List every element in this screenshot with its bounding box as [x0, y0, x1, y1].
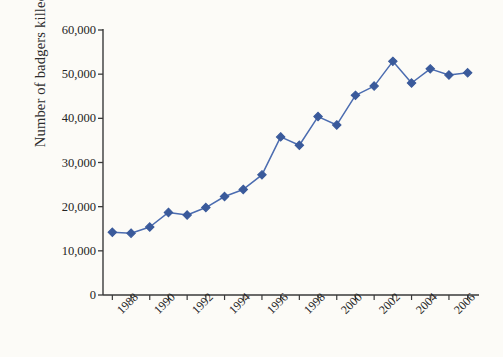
data-point-marker	[295, 141, 303, 149]
chart-container: Number of badgers killed 60,000 50,000 4…	[0, 0, 503, 357]
data-series-line	[112, 61, 467, 233]
data-point-marker	[220, 192, 228, 200]
data-point-marker	[183, 211, 191, 219]
data-point-marker	[108, 228, 116, 236]
data-point-marker	[202, 203, 210, 211]
data-point-marker	[463, 69, 471, 77]
data-point-marker	[314, 112, 322, 120]
data-point-marker	[276, 133, 284, 141]
data-point-marker	[351, 91, 359, 99]
data-point-marker	[333, 121, 341, 129]
data-point-marker	[445, 71, 453, 79]
data-point-marker	[127, 229, 135, 237]
